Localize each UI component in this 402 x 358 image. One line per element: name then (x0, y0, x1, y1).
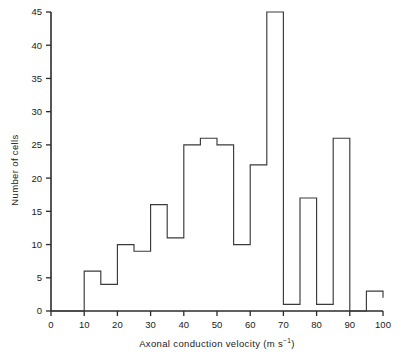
y-tick-label: 40 (31, 40, 42, 51)
histogram-figure: Number of cells 051015202530354045 01020… (0, 0, 402, 358)
x-tick-label: 90 (345, 319, 356, 330)
y-tick-label: 10 (31, 239, 42, 250)
y-tick-label: 25 (31, 139, 42, 150)
histogram-outline (51, 12, 383, 311)
x-tick-label: 20 (112, 319, 123, 330)
y-tick-label: 5 (37, 272, 42, 283)
x-tick-label: 100 (375, 319, 391, 330)
x-axis-label: Axonal conduction velocity (m s−1) (139, 337, 295, 349)
x-axis-label-superscript: −1 (283, 337, 291, 344)
x-axis-label-main: Axonal conduction velocity (m s (139, 338, 283, 349)
x-tick-label: 80 (311, 319, 322, 330)
y-axis-label: Number of cells (9, 134, 20, 205)
x-tick-label: 50 (212, 319, 223, 330)
y-tick-label: 15 (31, 206, 42, 217)
y-tick-label: 45 (31, 6, 42, 17)
x-tick-label: 70 (278, 319, 289, 330)
y-tick-label: 30 (31, 106, 42, 117)
x-axis-label-text: Axonal conduction velocity (m s−1) (139, 337, 295, 349)
x-axis-ticks: 0102030405060708090100 (48, 311, 391, 330)
y-tick-label: 0 (37, 305, 42, 316)
chart-svg: Number of cells 051015202530354045 01020… (0, 0, 402, 358)
x-axis-label-tail: ) (291, 338, 295, 349)
plot-canvas: Number of cells 051015202530354045 01020… (0, 0, 402, 358)
x-tick-label: 40 (179, 319, 190, 330)
x-tick-label: 10 (79, 319, 90, 330)
y-tick-label: 20 (31, 173, 42, 184)
x-tick-label: 30 (145, 319, 156, 330)
y-tick-label: 35 (31, 73, 42, 84)
y-axis-ticks: 051015202530354045 (31, 6, 51, 316)
x-tick-label: 60 (245, 319, 256, 330)
y-axis-label-text: Number of cells (9, 134, 20, 205)
x-tick-label: 0 (48, 319, 53, 330)
